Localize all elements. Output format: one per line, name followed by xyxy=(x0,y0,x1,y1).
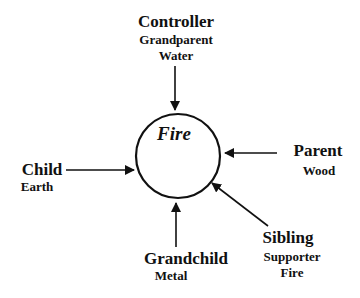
sibling-relation-label: Supporter xyxy=(263,250,320,263)
sibling-arrow xyxy=(212,183,268,226)
child-element-label: Earth xyxy=(21,180,54,193)
sibling-element-label: Fire xyxy=(281,266,304,279)
controller-relation-label: Grandparent xyxy=(139,33,212,46)
child-role-label: Child xyxy=(22,161,63,178)
controller-role-label: Controller xyxy=(138,13,214,30)
sibling-role-label: Sibling xyxy=(262,229,313,246)
grandchild-role-label: Grandchild xyxy=(144,250,228,267)
grandchild-element-label: Metal xyxy=(155,269,187,282)
parent-role-label: Parent xyxy=(294,142,343,159)
parent-element-label: Wood xyxy=(303,164,336,177)
five-element-diagram: Fire Controller Grandparent Water Parent… xyxy=(0,0,360,298)
controller-element-label: Water xyxy=(159,49,194,62)
center-label: Fire xyxy=(157,124,191,143)
